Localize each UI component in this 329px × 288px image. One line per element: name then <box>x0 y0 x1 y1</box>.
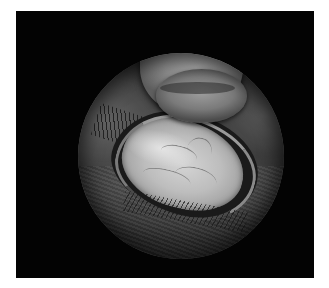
photo-panel <box>16 11 314 278</box>
circular-field-of-view <box>78 53 284 259</box>
vignette-shadow <box>78 53 284 259</box>
